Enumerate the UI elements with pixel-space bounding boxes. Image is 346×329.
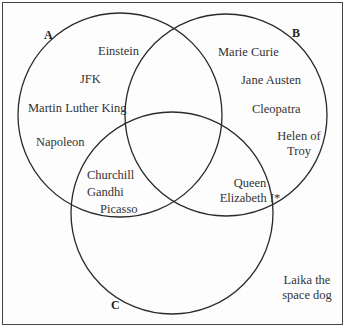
item-laika-line-2: space dog bbox=[272, 288, 342, 303]
item-helen-line-1: Helen of bbox=[264, 129, 334, 144]
item-laika-line-1: Laika the bbox=[272, 273, 342, 288]
item-einstein: Einstein bbox=[98, 44, 139, 59]
item-elizabeth-line-1: Queen bbox=[208, 176, 292, 191]
item-helen-of-troy: Helen of Troy bbox=[264, 129, 334, 159]
item-gandhi: Gandhi bbox=[87, 185, 124, 200]
item-martin-luther-king: Martin Luther King bbox=[28, 101, 127, 116]
item-jfk: JFK bbox=[80, 72, 101, 87]
set-label-c: C bbox=[111, 298, 120, 313]
item-napoleon: Napoleon bbox=[36, 135, 85, 150]
item-queen-elizabeth: Queen Elizabeth I* bbox=[208, 176, 292, 206]
item-jane-austen: Jane Austen bbox=[241, 73, 301, 88]
item-laika: Laika the space dog bbox=[272, 273, 342, 303]
item-churchill: Churchill bbox=[87, 168, 134, 183]
set-label-a: A bbox=[44, 28, 53, 43]
item-picasso: Picasso bbox=[100, 202, 138, 217]
item-elizabeth-line-2: Elizabeth I* bbox=[208, 191, 292, 206]
set-label-b: B bbox=[292, 26, 300, 41]
item-helen-line-2: Troy bbox=[264, 144, 334, 159]
item-marie-curie: Marie Curie bbox=[218, 45, 279, 60]
item-cleopatra: Cleopatra bbox=[252, 102, 301, 117]
